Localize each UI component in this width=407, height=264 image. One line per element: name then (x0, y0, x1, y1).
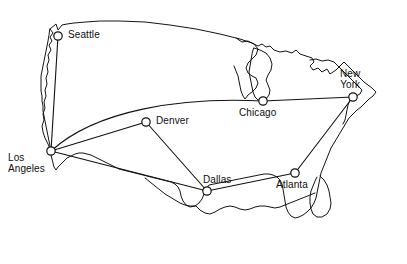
florida-peninsula (310, 176, 331, 217)
city-node-atlanta[interactable] (291, 169, 299, 177)
city-label-denver: Denver (156, 116, 189, 127)
city-node-seattle[interactable] (54, 32, 62, 40)
great-lakes-detail (234, 38, 258, 99)
map-canvas (0, 0, 407, 264)
city-node-new-york[interactable] (349, 93, 357, 101)
city-label-chicago: Chicago (239, 108, 276, 119)
route-seattle-los-angeles (51, 36, 58, 151)
state-interior-lines (42, 29, 362, 217)
city-label-atlanta: Atlanta (276, 180, 308, 191)
route-denver-dallas (146, 122, 207, 191)
us-network-map-figure: SeattleDenverChicagoNew YorkLos AngelesD… (0, 0, 407, 264)
route-chicago-new-york (263, 97, 353, 101)
city-node-denver[interactable] (142, 118, 150, 126)
city-label-seattle: Seattle (68, 30, 100, 41)
city-node-dallas[interactable] (203, 187, 211, 195)
route-los-angeles-dallas (51, 151, 207, 191)
route-los-angeles-denver (51, 122, 146, 151)
city-nodes (47, 32, 357, 195)
city-node-chicago[interactable] (259, 97, 267, 105)
city-label-los-angeles: Los Angeles (8, 152, 45, 174)
network-routes (51, 36, 353, 191)
city-node-los-angeles[interactable] (47, 147, 55, 155)
city-label-new-york: New York (340, 68, 360, 90)
route-atlanta-new-york (295, 97, 353, 173)
gulf-coast-detail (196, 193, 315, 214)
city-label-dallas: Dallas (203, 175, 231, 186)
michigan-detail (249, 48, 272, 101)
